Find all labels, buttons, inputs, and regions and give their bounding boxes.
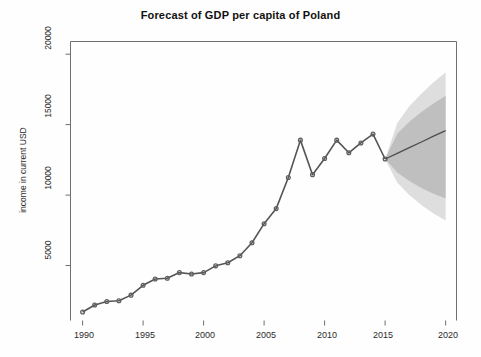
chart-container: Forecast of GDP per capita of Poland inc… xyxy=(0,0,481,357)
plot-area xyxy=(0,0,481,357)
x-tick-marks xyxy=(83,321,446,326)
observed-series-markers xyxy=(81,132,387,314)
y-tick-marks xyxy=(66,54,71,265)
axis-box xyxy=(66,42,457,326)
forecast-bands xyxy=(385,73,446,221)
observed-series-line xyxy=(83,134,386,312)
